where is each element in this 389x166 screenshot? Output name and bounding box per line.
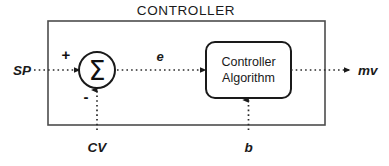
label-sp: SP — [13, 63, 32, 78]
controller-algorithm-label-line2: Algorithm — [222, 71, 275, 85]
label-plus-sign: + — [62, 46, 71, 63]
label-b: b — [244, 140, 252, 155]
label-e: e — [156, 49, 163, 64]
sigma-symbol: Σ — [88, 55, 105, 86]
page-title: CONTROLLER — [137, 3, 235, 18]
controller-algorithm-block — [206, 42, 291, 98]
label-cv: CV — [88, 140, 108, 155]
diagram-canvas: CONTROLLER SP + Σ - CV e Controller Algo… — [0, 0, 389, 166]
controller-block-diagram: CONTROLLER SP + Σ - CV e Controller Algo… — [0, 0, 389, 166]
controller-algorithm-label-line1: Controller — [221, 55, 275, 69]
label-minus-sign: - — [84, 88, 89, 105]
label-mv: mv — [358, 63, 379, 78]
